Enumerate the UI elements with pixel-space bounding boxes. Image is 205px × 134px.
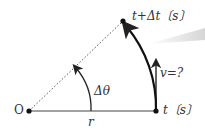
end-time-label: t+Δt〔s〕	[132, 10, 191, 22]
origin-point	[26, 108, 31, 113]
start-point	[153, 108, 158, 113]
start-time-label: t〔s〕	[163, 104, 198, 116]
angle-arc	[76, 68, 91, 111]
angle-label: Δθ	[94, 85, 110, 97]
callout-beam	[148, 28, 205, 44]
trajectory-arc	[127, 27, 156, 111]
end-point	[120, 18, 125, 23]
origin-label: O	[14, 104, 24, 116]
radius-label: r	[88, 116, 94, 128]
velocity-label: v=?	[160, 67, 183, 79]
